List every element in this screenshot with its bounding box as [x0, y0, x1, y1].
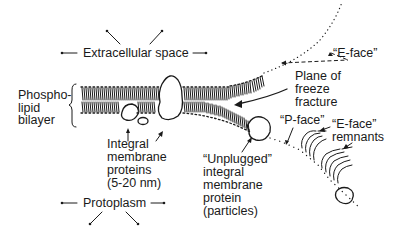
- freeze-fracture-diagram: Extracellular space Phospho- lipid bilay…: [0, 0, 401, 235]
- eface-label: “E-face”: [333, 46, 377, 60]
- diagonal-arrow-right-icon: [126, 212, 138, 224]
- fracture-arrow-icon: [238, 89, 287, 104]
- integral-label-line2: membrane: [107, 150, 167, 164]
- protein-tiny: [138, 118, 148, 125]
- diagonal-arrow-left-icon: [107, 31, 120, 44]
- protein-large: [158, 76, 182, 120]
- unplugged-label-line1: “Unplugged”: [203, 152, 272, 166]
- eface-label-group: “E-face”: [281, 46, 377, 66]
- protein-small: [122, 104, 139, 120]
- diagonal-arrow-right-icon: [150, 31, 162, 44]
- extracellular-space-label: Extracellular space: [83, 46, 189, 60]
- unplugged-label-line3: membrane: [203, 178, 263, 192]
- plane-label-line3: fracture: [295, 95, 337, 109]
- integral-label-group: Integral membrane proteins (5-20 nm): [107, 128, 167, 190]
- lower-leaflet: [81, 102, 250, 132]
- fracture-plane-group: Plane of freeze fracture: [234, 69, 341, 109]
- protoplasm-label-group: Protoplasm: [61, 196, 166, 225]
- protoplasm-label: Protoplasm: [83, 196, 146, 210]
- unplugged-label-line5: (particles): [203, 204, 258, 218]
- diagonal-arrow-left-icon: [90, 212, 102, 224]
- remnants-label-group: “E-face” remnants: [319, 117, 384, 149]
- plane-label-line2: freeze: [295, 82, 330, 96]
- integral-label-line1: Integral: [107, 137, 149, 151]
- bilayer-label-line1: Phospho-: [18, 88, 72, 102]
- unplugged-label-line4: protein: [203, 191, 241, 205]
- bilayer-label-group: Phospho- lipid bilayer: [18, 84, 76, 127]
- extracellular-label-group: Extracellular space: [61, 30, 208, 60]
- upper-leaflet: [81, 75, 264, 100]
- unplugged-protein: [248, 117, 271, 141]
- unplugged-label-line2: integral: [203, 165, 244, 179]
- bilayer-label-line3: bilayer: [18, 113, 55, 127]
- integral-label-line4: (5-20 nm): [107, 176, 161, 190]
- bottom-particle: [336, 188, 354, 204]
- remnants-label-line2: remnants: [332, 130, 384, 144]
- plane-label-line1: Plane of: [295, 69, 341, 83]
- pface-label: “P-face”: [280, 113, 324, 127]
- remnants-label-line1: “E-face”: [332, 117, 376, 131]
- unplugged-label-group: “Unplugged” integral membrane protein (p…: [203, 137, 272, 218]
- integral-label-line3: proteins: [107, 163, 151, 177]
